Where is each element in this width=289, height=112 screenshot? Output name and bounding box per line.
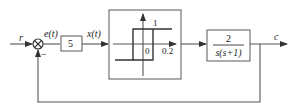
block-diagram: r − e(t) 5 x(t) 1 0 0.2 2 s(s+1) c	[0, 0, 289, 112]
relay-block	[109, 10, 181, 79]
feedback-sign: −	[41, 49, 47, 60]
relay-output-level: 1	[153, 18, 158, 28]
input-label: r	[19, 32, 23, 43]
error-label: e(t)	[44, 28, 59, 40]
output-label: c	[274, 31, 279, 42]
gain-output-label: x(t)	[86, 28, 102, 40]
relay-origin-label: 0	[145, 46, 150, 56]
relay-hysteresis-label: 0.2	[162, 46, 173, 56]
summing-junction	[33, 39, 43, 49]
plant-numerator: 2	[226, 33, 231, 44]
gain-value: 5	[68, 38, 73, 49]
plant-denominator: s(s+1)	[215, 47, 242, 59]
